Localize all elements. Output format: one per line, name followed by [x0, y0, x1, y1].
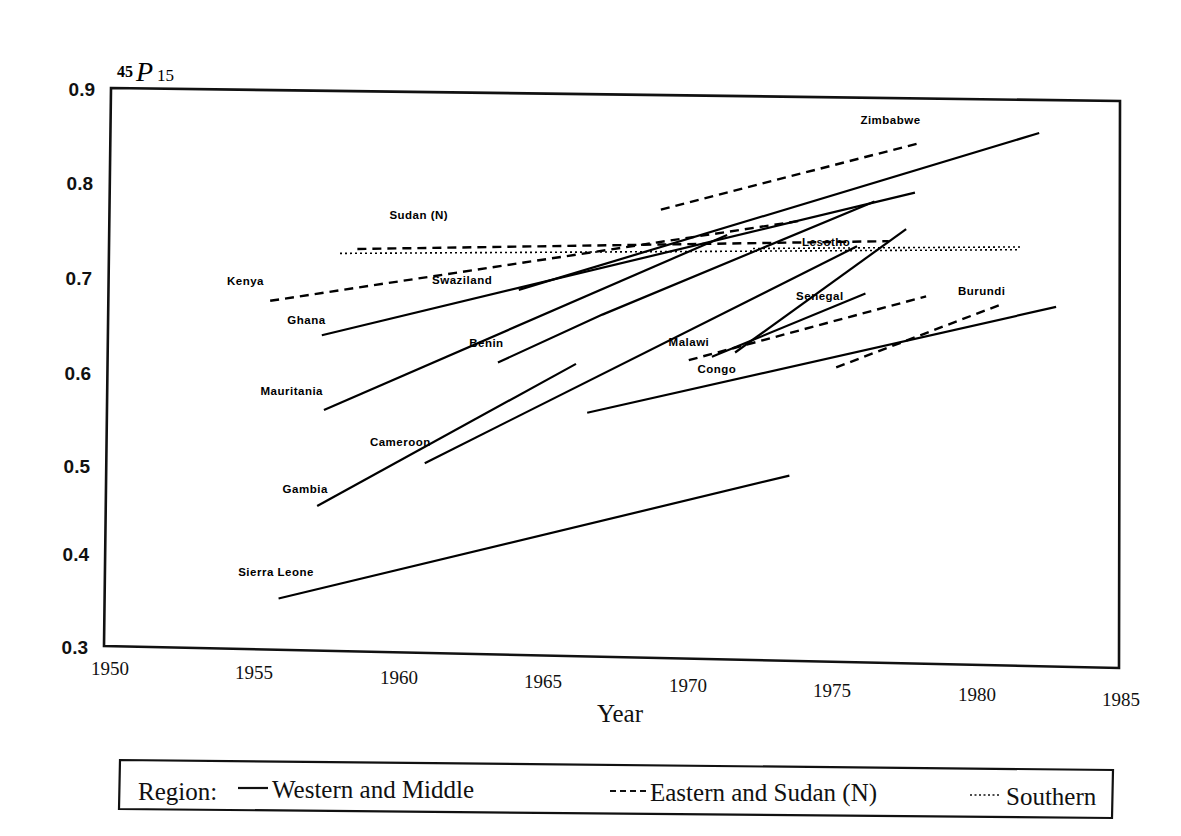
series-label-gambia: Gambia — [283, 483, 328, 495]
ytick-0.6: 0.6 — [65, 363, 91, 384]
series-line-burundi — [836, 303, 1004, 367]
series-line-gambia — [317, 364, 576, 506]
legend-label-western: Western and Middle — [272, 776, 474, 803]
xtick-1950: 1950 — [91, 658, 129, 679]
chart-canvas: 0.9 0.8 0.7 0.6 0.5 0.4 0.3 1950 1955 19… — [0, 0, 1181, 836]
series-labels-group: Sierra LeoneGambiaCameroonMauritaniaGhan… — [227, 114, 1005, 578]
series-label-congo: Congo — [697, 363, 736, 375]
xtick-1955: 1955 — [235, 662, 273, 683]
y-axis-title-subscript: 15 — [157, 66, 174, 85]
y-axis-title-symbol: P — [135, 56, 153, 87]
y-axis-ticks: 0.9 0.8 0.7 0.6 0.5 0.4 0.3 — [62, 79, 95, 658]
series-label-kenya: Kenya — [227, 275, 264, 287]
plot-frame-group — [104, 88, 1120, 668]
ytick-0.8: 0.8 — [67, 173, 93, 194]
series-lines-group — [270, 133, 1056, 598]
xtick-1985: 1985 — [1102, 689, 1140, 710]
ytick-0.4: 0.4 — [63, 544, 90, 565]
series-line-malawi — [689, 296, 926, 360]
ytick-0.5: 0.5 — [64, 456, 91, 477]
x-axis-title: Year — [597, 700, 644, 727]
series-label-mauritania: Mauritania — [261, 385, 324, 397]
y-axis-title-prefix: 45 — [117, 63, 133, 80]
series-label-malawi: Malawi — [669, 336, 710, 348]
series-label-lesotho: Lesotho — [802, 236, 850, 248]
series-label-benin: Benin — [469, 337, 503, 349]
legend: Region: Western and Middle Eastern and S… — [119, 760, 1113, 818]
ytick-0.9: 0.9 — [69, 79, 95, 100]
plot-frame — [104, 88, 1120, 668]
series-label-burundi: Burundi — [958, 285, 1006, 297]
series-label-zimbabwe: Zimbabwe — [860, 114, 920, 126]
legend-frame — [119, 760, 1113, 818]
figure-container: 0.9 0.8 0.7 0.6 0.5 0.4 0.3 1950 1955 19… — [0, 0, 1181, 836]
legend-label-eastern: Eastern and Sudan (N) — [650, 779, 877, 807]
series-line-unlabeled-western-top — [519, 133, 1039, 290]
legend-prefix: Region: — [138, 778, 217, 805]
y-axis-title: 45 P 15 — [117, 56, 174, 87]
series-label-sierra-leone: Sierra Leone — [238, 566, 314, 578]
series-label-ghana: Ghana — [287, 314, 325, 326]
series-label-sudan-n: Sudan (N) — [389, 209, 448, 221]
series-line-sierra-leone — [279, 476, 790, 599]
ytick-0.7: 0.7 — [66, 268, 92, 289]
series-line-kenya — [270, 221, 799, 301]
series-line-unlabeled-western-lower — [587, 307, 1056, 413]
xtick-1975: 1975 — [813, 680, 851, 701]
xtick-1960: 1960 — [380, 667, 418, 688]
series-label-cameroon: Cameroon — [370, 436, 431, 448]
xtick-1980: 1980 — [958, 684, 996, 705]
legend-label-southern: Southern — [1006, 783, 1097, 810]
ytick-0.3: 0.3 — [62, 637, 88, 658]
series-label-swaziland: Swaziland — [432, 274, 492, 286]
xtick-1970: 1970 — [669, 675, 707, 696]
series-line-lesotho — [753, 247, 1022, 249]
series-label-senegal: Senegal — [796, 290, 844, 302]
xtick-1965: 1965 — [524, 671, 562, 692]
